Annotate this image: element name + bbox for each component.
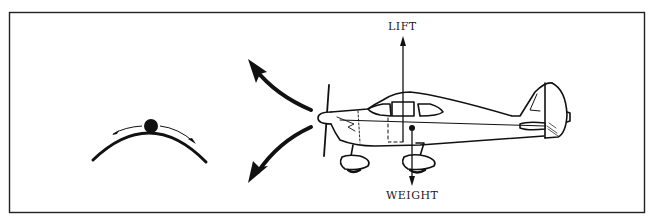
nose-gear-strut	[351, 145, 353, 156]
fuselage-stripe	[340, 120, 545, 126]
cowl-seam	[358, 111, 360, 143]
ball	[144, 119, 158, 133]
rudder-hatch	[547, 123, 558, 136]
pitch-down-arrow	[258, 127, 311, 172]
lift-arrowhead-icon	[400, 36, 406, 46]
front-wheel-fairing	[341, 155, 369, 169]
pitch-up-arrow	[256, 70, 311, 110]
main-wheel-fairing	[403, 155, 435, 170]
pitch-arrows	[248, 59, 311, 183]
fuselage-bottom	[331, 124, 544, 146]
roll-right-arrowhead-icon	[188, 138, 196, 144]
weight-arrowhead-icon	[409, 176, 415, 186]
roll-left-arrowhead-icon	[112, 130, 119, 135]
center-of-gravity	[409, 125, 415, 131]
airplane	[318, 83, 570, 173]
rear-window	[418, 104, 443, 116]
hill-curve	[93, 133, 206, 162]
cowl-detail	[337, 117, 355, 131]
ball-on-hill-illustration	[93, 119, 206, 162]
stability-diagram	[0, 0, 653, 222]
rudder	[545, 83, 567, 138]
weight-label: WEIGHT	[386, 189, 438, 202]
spinner	[318, 112, 331, 124]
lift-vector	[400, 36, 406, 142]
lift-label: LIFT	[388, 20, 417, 33]
